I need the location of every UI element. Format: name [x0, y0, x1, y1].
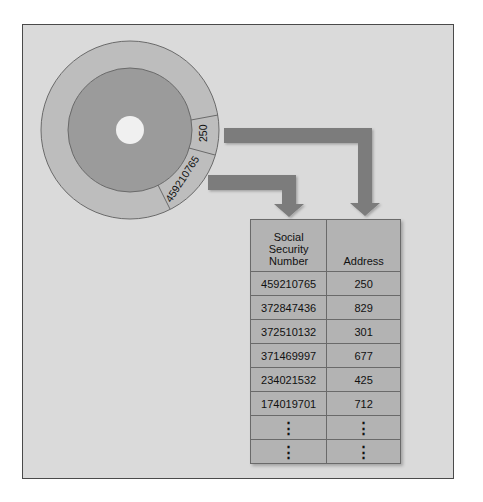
cell-address: 829 — [327, 296, 401, 320]
cell-ssn: 372510132 — [251, 320, 327, 344]
table-row: 372847436829 — [251, 296, 401, 320]
cell-ssn: 371469997 — [251, 344, 327, 368]
table-row: ⋮⋮ — [251, 440, 401, 464]
cell-ssn: 459210765 — [251, 272, 327, 296]
cell-address: ⋮ — [327, 416, 401, 440]
cell-ssn: 174019701 — [251, 392, 327, 416]
cell-ssn: ⋮ — [251, 416, 327, 440]
cell-ssn: 372847436 — [251, 296, 327, 320]
table-row: 372510132301 — [251, 320, 401, 344]
table-row: 174019701712 — [251, 392, 401, 416]
sector-label-address: 250 — [197, 124, 209, 142]
header-address: Address — [327, 220, 401, 272]
header-ssn: Social Security Number — [251, 220, 327, 272]
arrow-shaft — [208, 175, 304, 217]
diagram-canvas: 250 459210765 — [0, 0, 483, 502]
hard-disk: 250 459210765 — [41, 41, 219, 219]
table-header-row: Social Security Number Address — [251, 220, 401, 272]
table-row: 234021532425 — [251, 368, 401, 392]
cell-address: 677 — [327, 344, 401, 368]
table-row: 371469997677 — [251, 344, 401, 368]
arrow-to-ssn — [208, 175, 304, 217]
disk-spindle-hole — [116, 116, 144, 144]
ssn-address-index-table: Social Security Number Address 459210765… — [250, 219, 401, 464]
arrow-to-address — [224, 128, 380, 216]
cell-address: 250 — [327, 272, 401, 296]
cell-address: ⋮ — [327, 440, 401, 464]
header-ssn-line: Security — [269, 243, 309, 255]
cell-address: 425 — [327, 368, 401, 392]
header-ssn-line: Number — [269, 255, 308, 267]
cell-address: 712 — [327, 392, 401, 416]
cell-address: 301 — [327, 320, 401, 344]
header-ssn-line: Social — [274, 231, 304, 243]
cell-ssn: ⋮ — [251, 440, 327, 464]
cell-ssn: 234021532 — [251, 368, 327, 392]
table-row: 459210765250 — [251, 272, 401, 296]
arrow-shaft — [224, 128, 380, 216]
table-row: ⋮⋮ — [251, 416, 401, 440]
